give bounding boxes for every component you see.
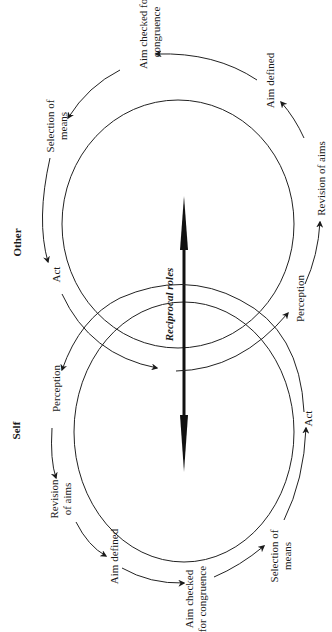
self-title: Self xyxy=(10,419,23,443)
arrow-other-checked-to-selection xyxy=(68,70,120,118)
arrow-self-aimdefined-to-checked xyxy=(122,568,184,583)
other-circle xyxy=(62,100,294,348)
arrow-other-act-to-reciprocal xyxy=(62,294,157,368)
arrow-other-revision-to-aimdefined xyxy=(281,102,304,138)
other-act-label: Act xyxy=(50,263,63,287)
arrow-self-selection-to-act xyxy=(284,428,306,520)
other-aim-defined-label: Aim defined xyxy=(264,51,277,111)
arrow-self-checked-to-selection xyxy=(214,546,264,577)
other-title: Other xyxy=(11,228,24,258)
arrow-other-selection-to-act xyxy=(42,158,50,262)
arrow-other-aimdefined-to-checked xyxy=(156,54,257,80)
self-aim-checked-label: Aim checked for congruence xyxy=(183,561,209,632)
other-perception-label: Perception xyxy=(294,269,307,329)
other-aim-checked-label: Aim checked for congruence xyxy=(137,0,163,72)
other-revision-label: Revision of aims xyxy=(315,136,328,222)
self-perception-label: Perception xyxy=(50,359,63,419)
self-act-label: Act xyxy=(302,407,315,431)
other-selection-label: Selection of means xyxy=(44,94,70,158)
arrow-self-perception-to-revision xyxy=(52,428,57,478)
arrow-self-revision-to-aimdefined xyxy=(76,522,106,556)
reciprocal-roles-label: Reciprocal roles xyxy=(163,262,176,348)
reciprocal-double-arrow xyxy=(180,196,188,472)
arrow-self-act-to-other-perception xyxy=(176,313,288,371)
self-selection-label: Selection of means xyxy=(268,525,294,587)
self-revision-label: Revision of aims xyxy=(48,474,74,524)
arrow-other-perception-to-revision xyxy=(305,222,320,284)
self-aim-defined-label: Aim defined xyxy=(108,527,121,587)
